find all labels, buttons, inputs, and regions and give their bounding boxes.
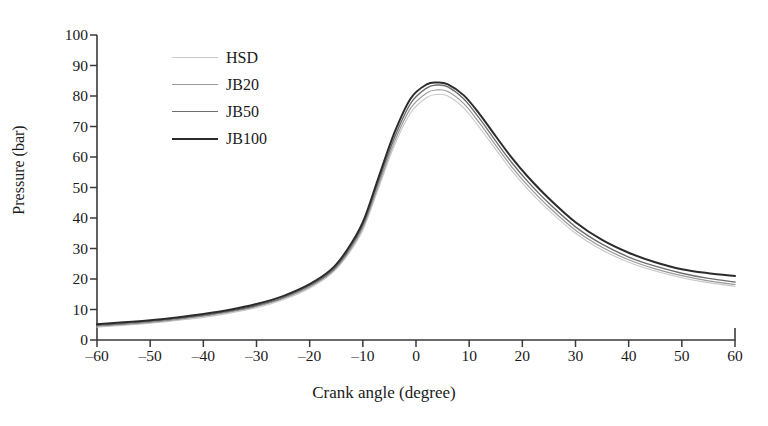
pressure-crank-angle-chart: Pressure (bar) 0102030405060708090100 –6… (0, 0, 768, 426)
legend-item-jb100: JB100 (172, 125, 322, 152)
legend-label: JB100 (226, 131, 267, 147)
legend-swatch-icon (172, 57, 218, 58)
legend-swatch-icon (172, 111, 218, 112)
x-tick-label: –10 (337, 348, 389, 364)
x-tick-label: –40 (177, 348, 229, 364)
chart-legend: HSDJB20JB50JB100 (172, 44, 322, 152)
x-tick-label: –30 (231, 348, 283, 364)
x-tick-label: –60 (71, 348, 123, 364)
legend-label: JB20 (226, 77, 259, 93)
legend-swatch-icon (172, 84, 218, 85)
x-tick-label: 60 (709, 348, 761, 364)
x-tick-label: 30 (550, 348, 602, 364)
x-axis-title: Crank angle (degree) (0, 383, 768, 403)
x-tick-labels: –60–50–40–30–20–100102030405060 (0, 348, 768, 378)
x-tick-label: –50 (124, 348, 176, 364)
legend-item-jb50: JB50 (172, 98, 322, 125)
x-tick-label: 40 (603, 348, 655, 364)
x-tick-label: 0 (390, 348, 442, 364)
legend-item-hsd: HSD (172, 44, 322, 71)
x-tick-label: 10 (443, 348, 495, 364)
legend-label: JB50 (226, 104, 259, 120)
legend-label: HSD (226, 50, 258, 66)
x-tick-label: –20 (284, 348, 336, 364)
x-tick-label: 20 (496, 348, 548, 364)
legend-swatch-icon (172, 138, 218, 140)
legend-item-jb20: JB20 (172, 71, 322, 98)
x-tick-label: 50 (656, 348, 708, 364)
